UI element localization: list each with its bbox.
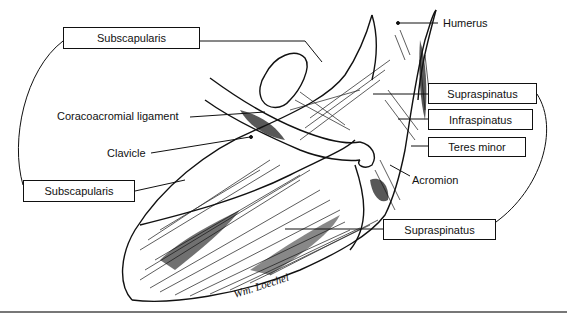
label-text: Subscapularis	[44, 185, 113, 197]
label-infraspinatus: Infraspinatus	[428, 109, 533, 130]
label-text: Supraspinatus	[404, 224, 474, 236]
label-subscapularis-bottom: Subscapularis	[23, 180, 135, 202]
label-text: Supraspinatus	[447, 88, 517, 100]
bottom-rule	[0, 311, 567, 313]
label-text: Teres minor	[448, 141, 505, 153]
label-teres-minor: Teres minor	[428, 137, 526, 157]
label-subscapularis-top: Subscapularis	[63, 27, 200, 49]
label-acromion: Acromion	[412, 174, 458, 187]
label-clavicle: Clavicle	[107, 147, 146, 160]
label-text: Subscapularis	[97, 32, 166, 44]
label-coracoacromial-ligament: Coracoacromial ligament	[57, 110, 179, 123]
label-supraspinatus-bottom: Supraspinatus	[383, 219, 496, 240]
label-supraspinatus-top: Supraspinatus	[428, 83, 537, 104]
label-humerus: Humerus	[443, 17, 488, 30]
anatomy-diagram: Wm. Loechel Subscapularis Subscapularis …	[0, 0, 567, 315]
label-text: Infraspinatus	[449, 114, 512, 126]
